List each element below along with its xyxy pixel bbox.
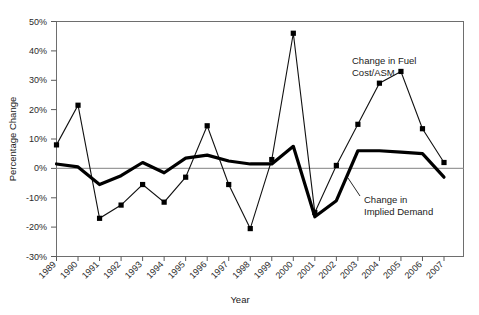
y-tick-label: 10%: [29, 134, 47, 144]
data-point-marker: [97, 216, 102, 221]
data-point-marker: [183, 175, 188, 180]
y-tick-label: 50%: [29, 17, 47, 27]
data-point-marker: [334, 163, 339, 168]
data-point-marker: [291, 31, 296, 36]
y-tick-label: -10%: [26, 193, 47, 203]
y-tick-label: 30%: [29, 75, 47, 85]
y-tick-label: 20%: [29, 105, 47, 115]
y-axis-tick-labels: 50% 40% 30% 20% 10% 0% -10% -20% -30%: [26, 17, 47, 262]
data-point-marker: [398, 69, 403, 74]
fuel-series-label-line2: Cost/ASM: [352, 67, 395, 78]
y-tick-label: 40%: [29, 46, 47, 56]
data-point-marker: [162, 200, 167, 205]
data-point-marker: [248, 226, 253, 231]
data-point-marker: [441, 160, 446, 165]
y-tick-label: 0%: [34, 163, 47, 173]
demand-series-label-line2: Implied Demand: [364, 206, 433, 217]
y-axis-title: Percentage Change: [7, 97, 18, 182]
y-tick-label: -20%: [26, 222, 47, 232]
data-point-marker: [205, 123, 210, 128]
data-point-marker: [118, 202, 123, 207]
data-point-marker: [75, 103, 80, 108]
y-tick-label: -30%: [26, 252, 47, 262]
data-point-marker: [54, 142, 59, 147]
demand-series-label-line1: Change in: [364, 194, 407, 205]
fuel-series-label-line1: Change in Fuel: [352, 55, 416, 66]
x-axis-title: Year: [230, 294, 249, 305]
chart-container: 50% 40% 30% 20% 10% 0% -10% -20% -30% Pe…: [0, 0, 479, 315]
data-point-marker: [355, 122, 360, 127]
data-point-marker: [312, 210, 317, 215]
data-point-marker: [140, 182, 145, 187]
data-point-marker: [226, 182, 231, 187]
data-point-marker: [420, 126, 425, 131]
data-point-marker: [377, 81, 382, 86]
percentage-change-line-chart: 50% 40% 30% 20% 10% 0% -10% -20% -30% Pe…: [0, 0, 479, 315]
data-point-marker: [269, 157, 274, 162]
